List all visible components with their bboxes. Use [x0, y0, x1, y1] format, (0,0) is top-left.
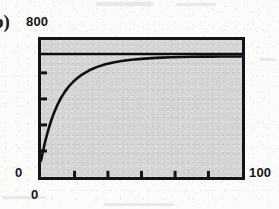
scan-artifact: [176, 3, 216, 6]
x-axis-ticks: [75, 171, 209, 177]
y-axis-min-label: 0: [15, 166, 22, 179]
data-curve-line: [41, 56, 242, 160]
x-axis-max-label: 100: [249, 166, 271, 179]
scan-artifact: [96, 2, 154, 6]
scan-artifact: [2, 196, 46, 199]
figure-page: b) 800 0 0 100: [0, 0, 279, 209]
plot-frame: [38, 37, 245, 180]
scan-artifact: [260, 58, 276, 61]
x-axis-min-label: 0: [31, 188, 38, 201]
scan-artifact: [104, 203, 174, 206]
y-axis-max-label: 800: [26, 15, 48, 28]
panel-letter-label: b): [0, 12, 10, 31]
plot-canvas: [41, 40, 242, 177]
